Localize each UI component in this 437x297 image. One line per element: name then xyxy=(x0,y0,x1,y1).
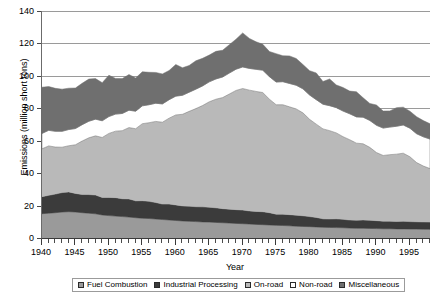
x-tick-minor xyxy=(128,239,129,243)
x-tick-minor xyxy=(195,239,196,243)
y-tick-label: 120 xyxy=(0,39,34,48)
x-tick-minor xyxy=(389,239,390,243)
y-tick-label: 140 xyxy=(0,7,34,16)
x-tick-minor xyxy=(315,239,316,243)
x-tick-major xyxy=(175,239,176,245)
x-tick-label: 1995 xyxy=(389,248,429,257)
x-tick-minor xyxy=(188,239,189,243)
x-tick-minor xyxy=(222,239,223,243)
x-tick-minor xyxy=(215,239,216,243)
x-tick-minor xyxy=(329,239,330,243)
x-tick-minor xyxy=(422,239,423,243)
x-tick-minor xyxy=(349,239,350,243)
y-tick-label: 40 xyxy=(0,169,34,178)
y-tick-label: 0 xyxy=(0,234,34,243)
plot-area xyxy=(42,11,430,238)
x-tick-minor xyxy=(48,239,49,243)
x-tick-minor xyxy=(396,239,397,243)
x-tick-minor xyxy=(402,239,403,243)
x-tick-minor xyxy=(202,239,203,243)
x-tick-minor xyxy=(61,239,62,243)
x-tick-minor xyxy=(54,239,55,243)
legend-label: Industrial Processing xyxy=(163,281,237,289)
legend-swatch-icon xyxy=(339,282,345,288)
x-tick-minor xyxy=(282,239,283,243)
legend-item[interactable]: Industrial Processing xyxy=(154,281,237,289)
x-tick-minor xyxy=(168,239,169,243)
x-tick-minor xyxy=(382,239,383,243)
x-tick-major xyxy=(141,239,142,245)
x-tick-minor xyxy=(416,239,417,243)
legend-label: On-road xyxy=(254,281,283,289)
x-tick-major xyxy=(208,239,209,245)
chart-legend: Fuel CombustionIndustrial ProcessingOn-r… xyxy=(72,278,405,292)
x-tick-major xyxy=(242,239,243,245)
x-tick-minor xyxy=(369,239,370,243)
legend-swatch-icon xyxy=(78,282,84,288)
x-tick-minor xyxy=(268,239,269,243)
plot-frame xyxy=(41,11,430,239)
x-tick-minor xyxy=(68,239,69,243)
legend-item[interactable]: Miscellaneous xyxy=(339,281,399,289)
x-tick-minor xyxy=(81,239,82,243)
x-tick-minor xyxy=(155,239,156,243)
legend-item[interactable]: Fuel Combustion xyxy=(78,281,147,289)
x-tick-major xyxy=(309,239,310,245)
x-tick-minor xyxy=(235,239,236,243)
legend-item[interactable]: Non-road xyxy=(290,281,332,289)
x-tick-minor xyxy=(289,239,290,243)
x-tick-minor xyxy=(322,239,323,243)
x-tick-minor xyxy=(181,239,182,243)
x-tick-minor xyxy=(429,239,430,243)
y-tick-label: 20 xyxy=(0,202,34,211)
x-tick-major xyxy=(41,239,42,245)
x-tick-major xyxy=(342,239,343,245)
x-tick-minor xyxy=(161,239,162,243)
x-tick-minor xyxy=(101,239,102,243)
y-tick-label: 100 xyxy=(0,72,34,81)
x-tick-minor xyxy=(88,239,89,243)
x-tick-minor xyxy=(95,239,96,243)
stacked-area-chart: Emissions (million short tons) 020406080… xyxy=(0,0,437,297)
x-tick-minor xyxy=(355,239,356,243)
x-tick-major xyxy=(375,239,376,245)
legend-label: Miscellaneous xyxy=(348,281,399,289)
legend-swatch-icon xyxy=(290,282,296,288)
x-tick-minor xyxy=(302,239,303,243)
x-tick-minor xyxy=(135,239,136,243)
legend-item[interactable]: On-road xyxy=(245,281,283,289)
x-tick-minor xyxy=(255,239,256,243)
legend-label: Fuel Combustion xyxy=(87,281,147,289)
legend-swatch-icon xyxy=(245,282,251,288)
x-tick-minor xyxy=(228,239,229,243)
x-tick-major xyxy=(74,239,75,245)
x-tick-major xyxy=(108,239,109,245)
x-axis-title: Year xyxy=(41,262,429,272)
legend-label: Non-road xyxy=(299,281,332,289)
x-tick-minor xyxy=(115,239,116,243)
x-tick-minor xyxy=(262,239,263,243)
x-tick-major xyxy=(409,239,410,245)
x-tick-minor xyxy=(335,239,336,243)
x-tick-minor xyxy=(148,239,149,243)
x-tick-major xyxy=(275,239,276,245)
legend-swatch-icon xyxy=(154,282,160,288)
x-tick-minor xyxy=(295,239,296,243)
x-tick-minor xyxy=(121,239,122,243)
area-series-group xyxy=(42,11,430,238)
y-tick-label: 80 xyxy=(0,104,34,113)
x-tick-minor xyxy=(248,239,249,243)
x-tick-minor xyxy=(362,239,363,243)
y-tick-label: 60 xyxy=(0,137,34,146)
